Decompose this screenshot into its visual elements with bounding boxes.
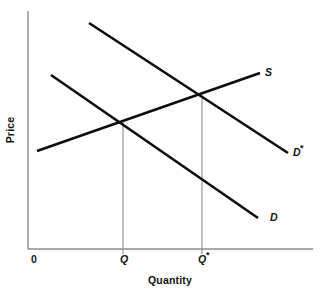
supply-demand-chart: S D * D 0 Q Q * Quantity Price	[0, 0, 322, 290]
x-axis-title: Quantity	[148, 274, 192, 286]
x-tick-label-qstar-asterisk: *	[206, 250, 210, 260]
x-tick-label-q: Q	[120, 253, 128, 265]
y-axis-title: Price	[4, 117, 16, 144]
x-tick-label-qstar: Q	[198, 253, 206, 265]
supply-curve-label: S	[265, 66, 272, 78]
demand-original-curve-label: D	[270, 211, 278, 223]
demand-original-curve	[51, 75, 258, 218]
chart-canvas: S D * D 0 Q Q * Quantity Price	[0, 0, 322, 290]
demand-shifted-curve-label-asterisk: *	[300, 143, 304, 153]
demand-shifted-curve	[89, 23, 288, 153]
origin-label: 0	[31, 253, 37, 265]
